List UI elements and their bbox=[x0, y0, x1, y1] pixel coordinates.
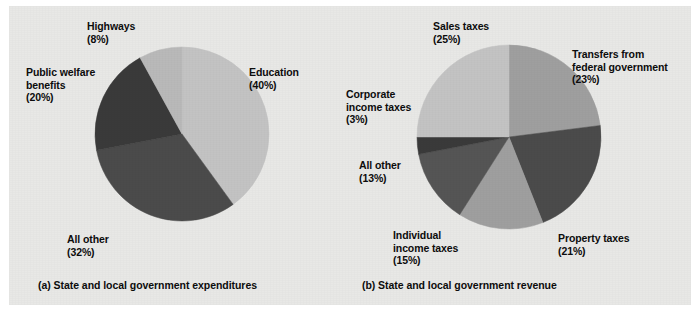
slice-label-transfers-pct: (23%) bbox=[572, 73, 668, 86]
slice-label-property-taxes: Property taxes (21%) bbox=[558, 232, 630, 257]
slice-label-public-welfare-name1: Public welfare bbox=[26, 66, 95, 79]
slice-label-individual-pct: (15%) bbox=[393, 254, 458, 267]
page-edge-top bbox=[0, 0, 700, 6]
slice-label-sales-taxes: Sales taxes (25%) bbox=[433, 20, 489, 45]
slice-label-education-pct: (40%) bbox=[249, 79, 299, 92]
caption-panel-b: (b) State and local government revenue bbox=[362, 279, 557, 291]
slice-label-all-other-a-pct: (32%) bbox=[67, 246, 109, 259]
slice-label-corporate-pct: (3%) bbox=[346, 113, 411, 126]
slice-label-sales-taxes-name: Sales taxes bbox=[433, 20, 489, 33]
slice-label-highways: Highways (8%) bbox=[87, 20, 135, 45]
slice-label-highways-name: Highways bbox=[87, 20, 135, 33]
pie-chart-expenditures bbox=[94, 46, 270, 222]
panel-expenditures: Highways (8%) Public welfare benefits (2… bbox=[9, 6, 350, 305]
slice-label-education: Education (40%) bbox=[249, 66, 299, 91]
slice-label-education-name: Education bbox=[249, 66, 299, 79]
slice-label-all-other-b-pct: (13%) bbox=[359, 172, 401, 185]
slice-label-all-other-a-name: All other bbox=[67, 233, 109, 246]
slice-label-corporate-name2: income taxes bbox=[346, 101, 411, 114]
slice-label-public-welfare-pct: (20%) bbox=[26, 91, 95, 104]
slice-label-individual-income-taxes: Individual income taxes (15%) bbox=[393, 229, 458, 267]
slice-label-transfers: Transfers from federal government (23%) bbox=[572, 48, 668, 86]
slice-label-public-welfare-name2: benefits bbox=[26, 79, 95, 92]
panel-revenue: Sales taxes (25%) Transfers from federal… bbox=[350, 6, 691, 305]
slice-label-public-welfare: Public welfare benefits (20%) bbox=[26, 66, 95, 104]
slice-label-highways-pct: (8%) bbox=[87, 33, 135, 46]
page-edge-bottom bbox=[0, 305, 700, 311]
figure-container: Highways (8%) Public welfare benefits (2… bbox=[0, 0, 700, 311]
slice-label-all-other-b-name: All other bbox=[359, 159, 401, 172]
caption-panel-a: (a) State and local government expenditu… bbox=[38, 279, 257, 291]
slice-label-transfers-name1: Transfers from bbox=[572, 48, 668, 61]
slice-label-individual-name2: income taxes bbox=[393, 242, 458, 255]
slice-label-all-other-a: All other (32%) bbox=[67, 233, 109, 258]
slice-label-individual-name1: Individual bbox=[393, 229, 458, 242]
slice-label-property-pct: (21%) bbox=[558, 245, 630, 258]
slice-label-sales-taxes-pct: (25%) bbox=[433, 33, 489, 46]
slice-label-all-other-b: All other (13%) bbox=[359, 159, 401, 184]
page-edge-right bbox=[691, 0, 700, 311]
page-edge-left bbox=[0, 0, 9, 311]
slice-label-corporate-name1: Corporate bbox=[346, 88, 411, 101]
slice-label-property-name: Property taxes bbox=[558, 232, 630, 245]
pie-slice bbox=[417, 45, 509, 137]
slice-label-transfers-name2: federal government bbox=[572, 61, 668, 74]
slice-label-corporate-income-taxes: Corporate income taxes (3%) bbox=[346, 88, 411, 126]
